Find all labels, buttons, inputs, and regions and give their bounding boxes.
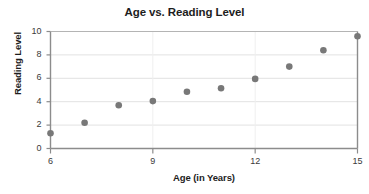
- data-point: [354, 33, 361, 40]
- data-point: [286, 63, 293, 70]
- y-tick-label: 10: [20, 26, 42, 36]
- data-point: [218, 85, 225, 92]
- y-tick-label: 6: [20, 72, 42, 82]
- gridlines: [51, 32, 358, 149]
- scatter-chart: Age vs. Reading Level Reading Level Age …: [0, 0, 369, 194]
- data-point: [47, 130, 54, 137]
- axis-lines: [51, 32, 358, 149]
- x-tick-label: 12: [243, 156, 267, 166]
- x-tick-label: 9: [141, 156, 165, 166]
- data-point: [115, 102, 122, 109]
- x-tick-label: 6: [39, 156, 63, 166]
- x-tick-label: 15: [346, 156, 369, 166]
- data-point: [184, 88, 191, 95]
- y-tick-label: 2: [20, 119, 42, 129]
- y-tick-label: 8: [20, 49, 42, 59]
- y-tick-label: 0: [20, 143, 42, 153]
- data-points: [47, 33, 361, 137]
- y-tick-label: 4: [20, 96, 42, 106]
- data-point: [252, 76, 259, 83]
- axis-ticks: [47, 32, 358, 154]
- data-point: [150, 98, 157, 105]
- data-point: [81, 119, 88, 126]
- data-point: [320, 47, 327, 54]
